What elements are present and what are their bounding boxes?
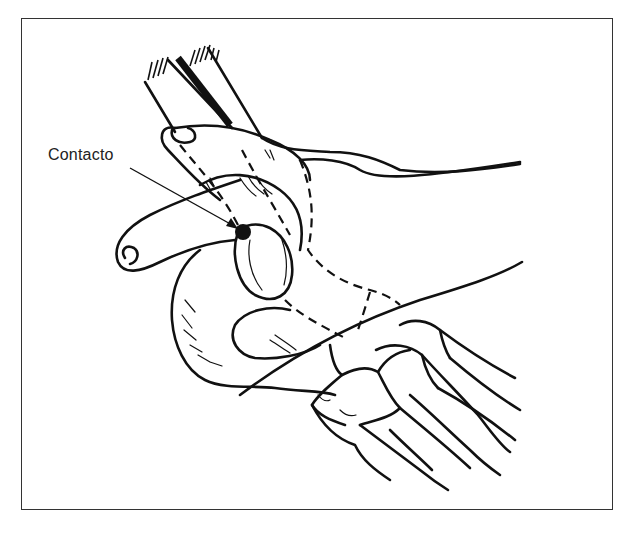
upper-fingers xyxy=(145,45,262,138)
middle-finger xyxy=(200,175,302,250)
metatarsals xyxy=(360,330,520,490)
tarsal-bones xyxy=(312,321,450,480)
thumb xyxy=(117,178,240,271)
contact-label: Contacto xyxy=(48,146,114,164)
hand-foot-illustration xyxy=(0,0,633,533)
calcaneus xyxy=(172,250,335,395)
back-of-hand xyxy=(300,159,520,176)
contact-point-marker xyxy=(235,224,251,240)
